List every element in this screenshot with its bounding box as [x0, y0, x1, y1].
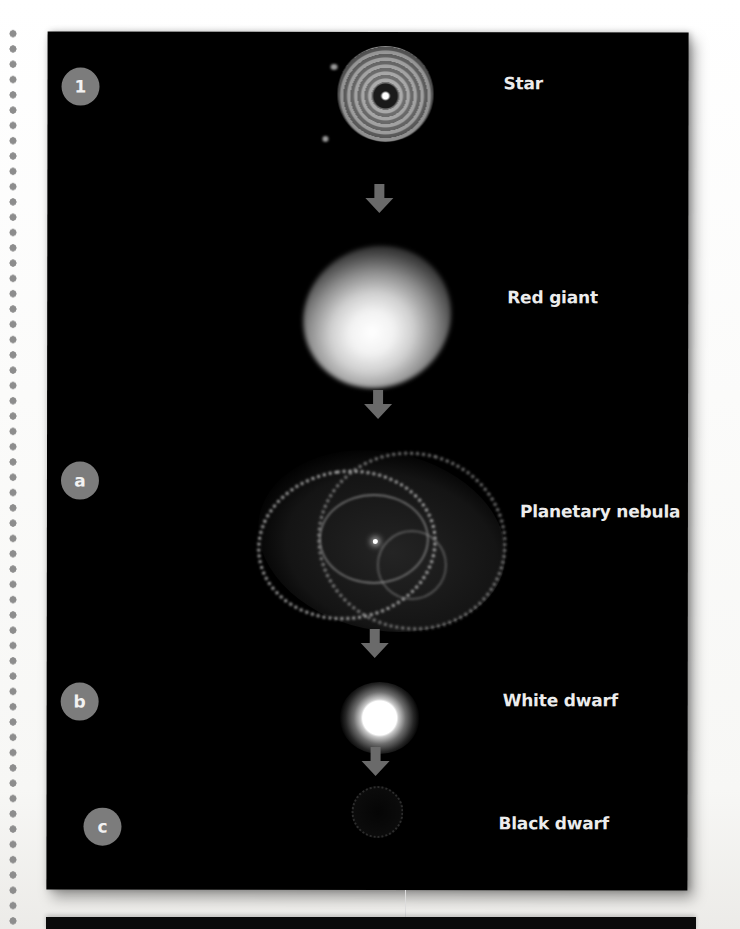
- star-speck: [322, 136, 328, 142]
- star-speck: [331, 64, 338, 70]
- stellar-evolution-panel: 1 Star Red giant a Planetary nebula b Wh…: [46, 32, 688, 891]
- nebula-central-star: [373, 539, 378, 544]
- page-crease: [405, 890, 406, 917]
- star-image: [337, 46, 433, 142]
- red-giant-image: [278, 220, 476, 414]
- badge-c: c: [83, 808, 121, 846]
- label-red-giant: Red giant: [507, 287, 598, 307]
- planetary-nebula-image: [257, 452, 507, 630]
- dotted-margin: [8, 26, 18, 929]
- label-star: Star: [504, 73, 543, 93]
- label-black-dwarf: Black dwarf: [498, 813, 609, 833]
- badge-b: b: [61, 683, 99, 721]
- badge-1: 1: [61, 68, 99, 106]
- next-panel-edge: [46, 917, 696, 929]
- white-dwarf-image: [340, 682, 420, 754]
- label-white-dwarf: White dwarf: [503, 690, 618, 710]
- arrow-down-icon: [361, 747, 391, 777]
- arrow-down-icon: [364, 184, 394, 214]
- arrow-down-icon: [363, 390, 393, 420]
- badge-a: a: [61, 462, 99, 500]
- arrow-down-icon: [360, 629, 390, 659]
- black-dwarf-image: [351, 786, 403, 838]
- label-planetary-nebula: Planetary nebula: [520, 501, 680, 521]
- nebula-lobe: [377, 530, 447, 600]
